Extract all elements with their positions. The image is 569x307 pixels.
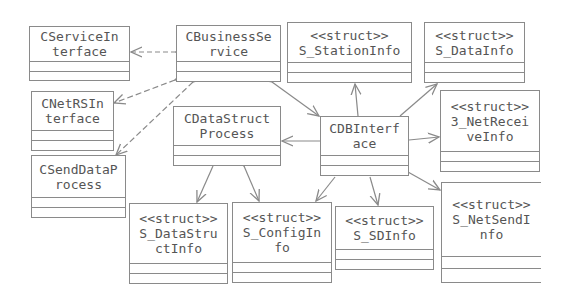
class-header: <<struct>> S_DataInfo <box>425 23 524 62</box>
relation-db-datainfo <box>400 84 437 116</box>
class-csenddataprocess[interactable]: CSendDataP rocess <box>31 155 126 218</box>
relation-datastruct-configinfo <box>244 166 259 201</box>
class-name-line2: rvice <box>209 44 248 59</box>
class-name-line1: CDBInterf <box>329 121 399 136</box>
attributes-section <box>441 151 539 161</box>
struct-s-netsendinfo[interactable]: <<struct>> S_NetSendI nfo <box>441 182 541 283</box>
class-name-line1: 3_NetRecei <box>451 114 529 129</box>
operations-section <box>30 71 129 81</box>
operations-section <box>336 259 433 269</box>
operations-section <box>177 71 280 81</box>
attributes-section <box>32 130 113 140</box>
attributes-section <box>336 249 433 259</box>
attributes-section <box>174 145 280 155</box>
class-name-line2: Process <box>200 126 255 141</box>
struct-s-datastructinfo[interactable]: <<struct>> S_DataStru ctInfo <box>129 203 228 284</box>
class-cdbinterface[interactable]: CDBInterf ace <box>320 116 409 176</box>
class-name-line1: CSendDataP <box>39 162 117 177</box>
operations-section <box>441 161 539 171</box>
class-name-line2: rocess <box>55 177 102 192</box>
class-header: <<struct>> 3_NetRecei veInfo <box>441 91 539 151</box>
uml-class-diagram: CServiceIn terface CBusinessSe rvice <<s… <box>0 0 569 307</box>
class-cserviceinterface[interactable]: CServiceIn terface <box>29 26 130 81</box>
class-header: <<struct>> S_SDInfo <box>336 207 433 249</box>
stereotype-label: <<struct>> <box>139 211 217 226</box>
stereotype-label: <<struct>> <box>452 197 530 212</box>
class-name-line1: CServiceIn <box>40 29 118 44</box>
relation-db-netreceiveinfo <box>409 137 439 140</box>
relation-business-netrs <box>114 80 175 103</box>
class-name-line2: terface <box>45 111 100 126</box>
class-cnetrsinterface[interactable]: CNetRSIn terface <box>31 91 114 151</box>
class-header: <<struct>> S_DataStru ctInfo <box>130 204 227 263</box>
attributes-section <box>130 263 227 273</box>
class-name-line2: veInfo <box>467 129 514 144</box>
operations-section <box>288 72 411 82</box>
class-header: <<struct>> S_NetSendI nfo <box>442 183 541 256</box>
class-header: <<struct>> S_ConfigIn fo <box>233 203 331 262</box>
stereotype-label: <<struct>> <box>451 99 529 114</box>
operations-section <box>174 155 280 165</box>
operations-section <box>32 207 125 217</box>
relation-db-sdinfo <box>370 177 378 205</box>
class-header: CDBInterf ace <box>321 117 408 155</box>
struct-s-datainfo[interactable]: <<struct>> S_DataInfo <box>424 22 525 83</box>
relation-datastruct-datastructinfo <box>197 166 213 202</box>
operations-section <box>233 272 331 282</box>
struct-s-stationinfo[interactable]: <<struct>> S_StationInfo <box>287 22 412 83</box>
class-name-line1: CBusinessSe <box>185 29 271 44</box>
class-header: CDataStruct Process <box>174 107 280 145</box>
class-name-line2: nfo <box>480 227 503 242</box>
operations-section <box>321 165 408 175</box>
class-name-line1: S_StationInfo <box>299 43 401 58</box>
class-name-line1: CDataStruct <box>184 111 270 126</box>
class-header: CNetRSIn terface <box>32 92 113 130</box>
operations-section <box>425 72 524 82</box>
operations-section <box>442 268 541 282</box>
attributes-section <box>288 62 411 72</box>
class-name-line1: S_NetSendI <box>452 212 530 227</box>
stereotype-label: <<struct>> <box>243 210 321 225</box>
class-name-line1: S_ConfigIn <box>243 225 321 240</box>
struct-s-configinfo[interactable]: <<struct>> S_ConfigIn fo <box>232 202 332 283</box>
attributes-section <box>233 262 331 272</box>
struct-s-netreceiveinfo[interactable]: <<struct>> 3_NetRecei veInfo <box>440 90 540 172</box>
stereotype-label: <<struct>> <box>345 213 423 228</box>
operations-section <box>32 140 113 150</box>
class-name-line2: ctInfo <box>155 241 202 256</box>
operations-section <box>130 273 227 283</box>
attributes-section <box>177 61 280 71</box>
relation-db-stationinfo <box>355 84 358 116</box>
class-name-line2: ace <box>353 136 376 151</box>
relation-db-netsendinfo <box>408 172 440 190</box>
stereotype-label: <<struct>> <box>310 28 388 43</box>
class-name-line1: S_DataStru <box>139 226 217 241</box>
relation-db-configinfo <box>316 177 335 201</box>
class-name-line1: S_SDInfo <box>353 228 416 243</box>
stereotype-label: <<struct>> <box>435 28 513 43</box>
class-name-line1: CNetRSIn <box>41 96 104 111</box>
struct-s-sdinfo[interactable]: <<struct>> S_SDInfo <box>335 206 434 270</box>
attributes-section <box>442 256 541 268</box>
class-name-line1: S_DataInfo <box>435 43 513 58</box>
class-header: <<struct>> S_StationInfo <box>288 23 411 62</box>
class-header: CSendDataP rocess <box>32 156 125 197</box>
attributes-section <box>425 62 524 72</box>
class-cbusinessservice[interactable]: CBusinessSe rvice <box>176 25 281 82</box>
class-name-line2: fo <box>274 240 290 255</box>
attributes-section <box>30 61 129 71</box>
class-name-line2: terface <box>52 44 107 59</box>
attributes-section <box>321 155 408 165</box>
class-header: CBusinessSe rvice <box>177 26 280 61</box>
class-header: CServiceIn terface <box>30 27 129 61</box>
attributes-section <box>32 197 125 207</box>
class-cdatastructprocess[interactable]: CDataStruct Process <box>173 106 281 166</box>
